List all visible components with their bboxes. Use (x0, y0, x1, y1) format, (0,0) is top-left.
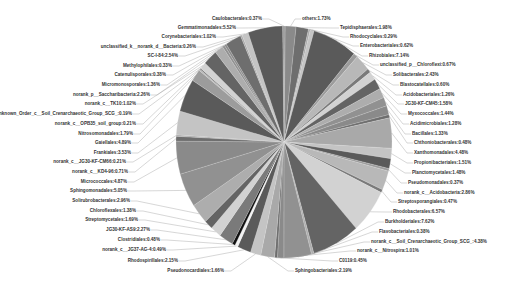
slice-label: Pseudonocardiales:1.66% (167, 268, 224, 273)
leader-line (389, 170, 407, 183)
slice-label: unclassified_k__norank_d__Bacteria:0.26% (101, 44, 196, 49)
slice-label: Caulobacterales:0.37% (212, 16, 262, 21)
slice-label: norank_c__KD4-96:0.71% (72, 169, 128, 174)
slice-label: Propionibacteriales:1.51% (414, 160, 471, 165)
slice-label: Enterobacteriales:0.62% (360, 43, 413, 48)
slice-label: Chthoniobacterales:0.48% (414, 140, 471, 145)
slice-label: Corynebacteriales:1.02% (162, 34, 216, 39)
leader-line (151, 230, 226, 240)
leader-line (129, 139, 176, 172)
slice-label: Blastocatellales:0.60% (400, 82, 449, 87)
leader-line (263, 19, 284, 26)
leader-line (131, 201, 199, 214)
leader-line (128, 158, 177, 182)
slice-label: Gemmatimonadales:5.52% (178, 25, 236, 30)
slice-label: norank_c__JG30-KF-CM66:0.21% (53, 159, 126, 164)
slice-label: Burkholderiales:7.62% (385, 219, 434, 224)
slice-label: Bacillales:1.33% (412, 131, 448, 136)
slice-label: Gaiellales:4.89% (95, 140, 131, 145)
slice-label: Methylophilales:0.33% (123, 63, 172, 68)
slice-label: Sphingomonadales:5.05% (70, 188, 127, 193)
slice-label: JG30-KF-CM45:1.58% (405, 101, 452, 106)
slice-label: others:1.73% (302, 16, 331, 21)
slice-label: Pseudomonadales:0.37% (408, 180, 463, 185)
pie-chart (0, 0, 513, 292)
slice-label: Myxococcales:1.44% (408, 111, 454, 116)
leader-line (128, 190, 186, 191)
slice-label: Clostridiales:0.48% (118, 237, 160, 242)
leader-line (167, 246, 236, 250)
leader-line (392, 154, 414, 163)
leader-line (179, 250, 244, 261)
slice-label: Micrococcales:4.87% (81, 179, 127, 184)
slice-label: norank_p__Saccharibacteria:2.26% (73, 92, 150, 97)
leader-line (268, 257, 294, 271)
slice-label: Xanthomonadales:4.48% (414, 150, 468, 155)
leader-line (291, 19, 301, 26)
slice-label: Streptosporangiales:0.47% (398, 199, 457, 204)
slice-label: Solibacterales:2.43% (393, 72, 439, 77)
leader-line (382, 191, 397, 202)
leader-line (127, 136, 176, 163)
slice-label: Unknown_Order_c__Soil_Crenarchaeotic_Gro… (0, 111, 132, 116)
slice-label: Rhizobiales:7.14% (369, 53, 409, 58)
slice-label: Solirubrobacterales:2.96% (72, 198, 130, 203)
leader-line (161, 240, 234, 245)
slice-label: Streptomycetales:1.69% (85, 217, 138, 222)
leader-line (390, 164, 411, 173)
slice-label: Frankiales:3.53% (94, 150, 131, 155)
slice-label: Nitrosomonadales:1.79% (78, 131, 133, 136)
slice-label: Rhodocyclales:0.29% (350, 34, 397, 39)
slice-label: Flavobacteriales:0.38% (379, 229, 430, 234)
slice-label: Rhodobacterales:6.57% (393, 209, 445, 214)
slice-label: norank_c__OPB35_soil_group:0.21% (55, 121, 136, 126)
slice-label: norank_c__JG37-AG-4:0.49% (102, 247, 166, 252)
slice-label: Acidobacteriales:1.26% (403, 92, 454, 97)
slice-label: C0119:0.45% (339, 258, 367, 263)
slice-label: Rhodospirillales:2.15% (128, 258, 178, 263)
slice-label: norank_c__Nitrospira:1.01% (357, 248, 419, 253)
leader-line (225, 254, 256, 271)
slice-label: unclassified_p__Chloroflexi:0.67% (380, 62, 456, 67)
leader-line (139, 220, 216, 232)
leader-line (276, 258, 338, 261)
slice-label: Chloroflexales:1.38% (90, 208, 136, 213)
slice-label: Catenulisporales:0.38% (114, 72, 166, 77)
slice-label: Sphingobacteriales:2.19% (295, 268, 352, 273)
slice-label: JG30-KF-AS9:2.27% (106, 227, 150, 232)
pie-slices (176, 26, 392, 258)
slice-label: Planctomycetales:1.48% (412, 170, 465, 175)
slice-label: norank_c__Soil_Crenarchaeotic_Group_SCG_… (371, 239, 487, 244)
slice-label: Tepidisphaerales:1.98% (340, 25, 392, 30)
leader-line (137, 211, 208, 225)
slice-label: norank_c__TK10:1.02% (85, 101, 136, 106)
slice-label: Micromonosporales:1.36% (102, 82, 160, 87)
slice-label: norank_c__Acidobacteria:2.86% (404, 190, 474, 195)
slice-label: Acidimicrobiales:1.28% (410, 121, 461, 126)
slice-label: SC-I-84:2.54% (148, 53, 178, 58)
